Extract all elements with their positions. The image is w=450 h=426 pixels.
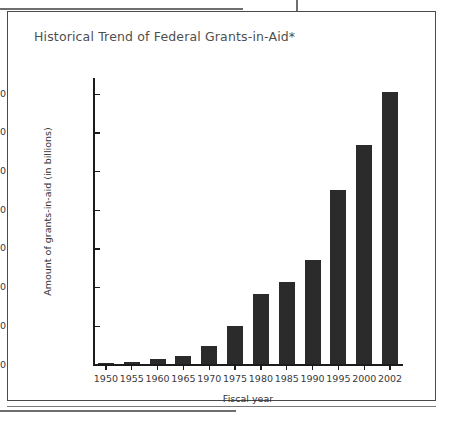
bar xyxy=(330,190,346,364)
x-axis-title: Fiscal year xyxy=(93,393,403,404)
plot-area: Amount of grants-in-aid (in billions) 05… xyxy=(8,12,437,402)
x-axis-tick xyxy=(389,365,390,370)
x-axis-tick xyxy=(260,365,261,370)
y-axis-line xyxy=(93,78,95,365)
y-axis-title: Amount of grants-in-aid (in billions) xyxy=(42,97,53,327)
x-axis-tick xyxy=(364,365,365,370)
y-axis-tick-label: 200 xyxy=(0,204,6,215)
bar xyxy=(201,346,217,365)
y-axis-tick xyxy=(94,365,100,366)
figure-container: Historical Trend of Federal Grants-in-Ai… xyxy=(7,11,436,401)
y-axis-tick-label: 50 xyxy=(0,320,6,331)
bar xyxy=(150,359,166,364)
x-axis-tick xyxy=(183,365,184,370)
x-axis-tick xyxy=(209,365,210,370)
bar xyxy=(279,282,295,364)
y-axis-tick-label: 250 xyxy=(0,165,6,176)
y-axis-tick-label: 0 xyxy=(0,359,6,370)
bar xyxy=(227,326,243,365)
x-axis-tick xyxy=(157,365,158,370)
y-axis-tick xyxy=(94,210,100,211)
bar xyxy=(175,356,191,365)
y-axis-tick xyxy=(94,287,100,288)
y-axis-tick xyxy=(94,171,100,172)
x-axis-tick xyxy=(338,365,339,370)
header-rule-left xyxy=(0,8,243,10)
footer-rule-left xyxy=(0,410,236,412)
x-axis-tick xyxy=(234,365,235,370)
x-axis-tick xyxy=(286,365,287,370)
y-axis-tick-label: 300 xyxy=(0,126,6,137)
y-axis-tick xyxy=(94,248,100,249)
footer-rule-inner xyxy=(7,406,436,407)
y-axis-tick xyxy=(94,94,100,95)
y-axis-tick-label: 150 xyxy=(0,242,6,253)
bar xyxy=(98,363,114,365)
y-axis-tick xyxy=(94,132,100,133)
bar xyxy=(253,294,269,364)
bar xyxy=(356,145,372,365)
y-axis-tick-label: 350 xyxy=(0,88,6,99)
y-axis-tick-label: 100 xyxy=(0,281,6,292)
x-axis-tick xyxy=(312,365,313,370)
x-axis-tick-label: 2002 xyxy=(370,373,410,384)
bar xyxy=(382,92,398,365)
x-axis-tick xyxy=(131,365,132,370)
bar xyxy=(305,260,321,365)
x-axis-tick xyxy=(105,365,106,370)
bar xyxy=(124,362,140,364)
y-axis-tick xyxy=(94,326,100,327)
